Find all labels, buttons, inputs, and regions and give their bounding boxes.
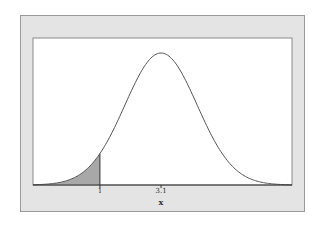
plot-area [33,38,292,185]
x-axis-label: x [159,197,164,207]
x-tick-label: 3.1 [155,187,166,195]
x-tick-label: 1 [98,187,102,195]
